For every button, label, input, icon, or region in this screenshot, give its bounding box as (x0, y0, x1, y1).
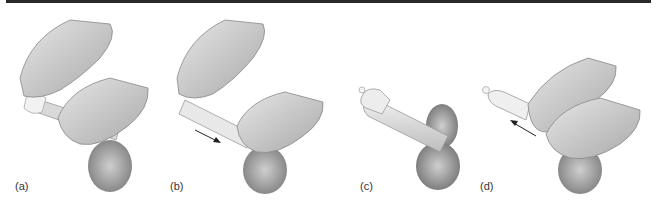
panel-c: (c) (330, 8, 490, 198)
illustration-c (330, 8, 490, 198)
panel-label-b: (b) (170, 180, 183, 192)
panel-b: (b) (165, 8, 330, 198)
panel-label-d: (d) (480, 180, 493, 192)
panel-a: (a) (0, 8, 165, 198)
panel-d: (d) (480, 8, 657, 198)
panel-label-a: (a) (15, 180, 28, 192)
illustration-b (165, 8, 330, 198)
panel-label-c: (c) (360, 180, 373, 192)
top-rule (6, 0, 651, 3)
illustration-a (0, 8, 165, 198)
illustration-d (480, 8, 657, 198)
